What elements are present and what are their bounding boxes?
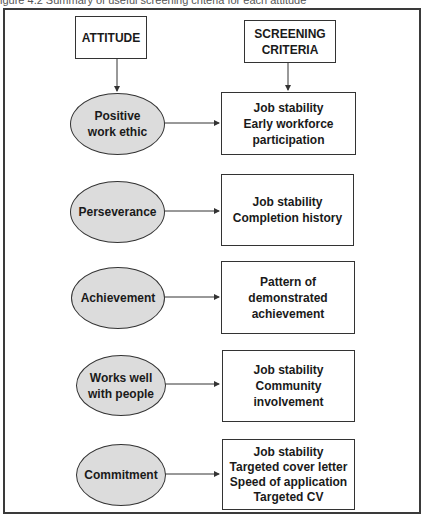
criteria-line: Job stability [253,100,323,116]
criteria-line: Job stability [253,445,323,460]
criteria-line: Early workforce [243,116,333,132]
attitude-label-line: Achievement [81,290,156,306]
attitude-label-line: with people [88,386,154,402]
criteria-line: Targeted CV [254,490,324,505]
criteria-line: Community [256,378,322,394]
criteria-box-perseverance: Job stability Completion history [221,174,354,246]
attitude-label-line: Works well [90,370,152,386]
attitude-ellipse-commitment: Commitment [76,444,166,506]
criteria-line: Pattern of [260,274,316,290]
criteria-line: Speed of application [230,475,347,490]
attitude-label-line: work ethic [88,124,147,140]
criteria-line: participation [252,132,324,148]
criteria-box-commitment: Job stability Targeted cover letter Spee… [222,439,355,510]
criteria-line: Job stability [252,194,322,210]
criteria-box-works-well-with-people: Job stability Community involvement [222,350,355,422]
attitude-ellipse-works-well-with-people: Works well with people [76,355,166,416]
criteria-box-achievement: Pattern of demonstrated achievement [221,261,355,334]
attitude-ellipse-perseverance: Perseverance [70,181,165,243]
criteria-line: Job stability [253,362,323,378]
attitude-label-line: Positive [94,108,140,124]
connector-arrows [0,0,423,520]
attitude-ellipse-achievement: Achievement [71,267,165,329]
criteria-box-positive-work-ethic: Job stability Early workforce participat… [221,92,356,155]
criteria-line: Completion history [233,210,342,226]
criteria-line: demonstrated [248,290,327,306]
attitude-ellipse-positive-work-ethic: Positive work ethic [70,93,165,155]
criteria-line: involvement [253,394,323,410]
attitude-label-line: Commitment [84,467,157,483]
criteria-line: Targeted cover letter [230,460,348,475]
attitude-label-line: Perseverance [78,204,156,220]
criteria-line: achievement [252,306,325,322]
